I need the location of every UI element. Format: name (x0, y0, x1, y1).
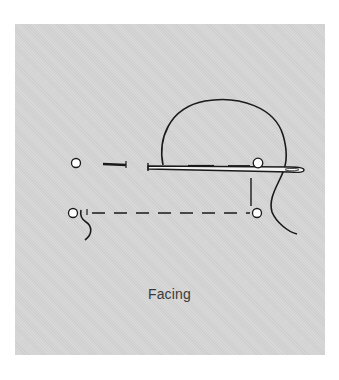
point-bottom-right (253, 209, 262, 218)
point-top-right (253, 158, 263, 168)
stitch-left-short (103, 164, 126, 165)
point-bottom-left (69, 209, 78, 218)
facing-stitch-diagram (0, 0, 339, 380)
needle-icon (148, 163, 304, 172)
point-top-left (72, 159, 81, 168)
figure-caption: Facing (0, 286, 339, 302)
thread-tail-curl (81, 210, 91, 240)
